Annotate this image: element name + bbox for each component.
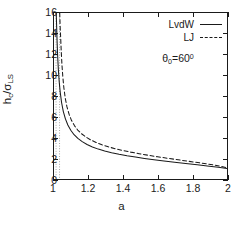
y-tick-mark bbox=[223, 33, 228, 34]
legend-item-lj: LJ bbox=[142, 31, 222, 44]
x-tick-label: 1.8 bbox=[178, 183, 208, 194]
y-tick-mark bbox=[223, 138, 228, 139]
y-tick-label: 10 bbox=[33, 70, 57, 81]
y-tick-label: 14 bbox=[33, 28, 57, 39]
y-tick-label: 6 bbox=[33, 112, 57, 123]
y-tick-label: 4 bbox=[33, 133, 57, 144]
y-axis-title: hc/σLS bbox=[1, 59, 15, 119]
legend-label-lj: LJ bbox=[183, 32, 194, 43]
legend-label-lvdw: LvdW bbox=[168, 19, 194, 30]
x-tick-mark bbox=[228, 175, 229, 180]
x-tick-label: 1.4 bbox=[108, 183, 138, 194]
y-tick-mark bbox=[223, 54, 228, 55]
y-tick-label: 8 bbox=[33, 91, 57, 102]
y-tick-mark bbox=[223, 75, 228, 76]
legend-line-dashed-icon bbox=[200, 34, 222, 42]
x-axis-title: a bbox=[0, 200, 243, 212]
x-tick-label: 1.2 bbox=[73, 183, 103, 194]
figure-container: 024681012141611.21.41.61.82 hc/σLS a Lvd… bbox=[0, 0, 243, 230]
x-tick-mark bbox=[123, 12, 124, 17]
x-tick-mark bbox=[53, 12, 54, 17]
x-tick-mark bbox=[53, 175, 54, 180]
x-tick-label: 1 bbox=[38, 183, 68, 194]
y-tick-mark bbox=[223, 117, 228, 118]
legend-item-lvdw: LvdW bbox=[142, 18, 222, 31]
x-tick-mark bbox=[158, 12, 159, 17]
x-tick-label: 1.6 bbox=[143, 183, 173, 194]
theta-annotation: θ0=600 bbox=[133, 52, 223, 66]
legend-line-solid-icon bbox=[200, 21, 222, 29]
x-tick-mark bbox=[123, 175, 124, 180]
x-tick-mark bbox=[193, 175, 194, 180]
x-tick-mark bbox=[193, 12, 194, 17]
x-tick-label: 2 bbox=[213, 183, 243, 194]
y-tick-mark bbox=[223, 96, 228, 97]
y-tick-mark bbox=[223, 159, 228, 160]
x-tick-mark bbox=[158, 175, 159, 180]
x-tick-mark bbox=[88, 12, 89, 17]
x-tick-mark bbox=[228, 12, 229, 17]
y-tick-label: 2 bbox=[33, 154, 57, 165]
legend: LvdW LJ bbox=[142, 18, 222, 44]
x-tick-mark bbox=[88, 175, 89, 180]
y-tick-label: 12 bbox=[33, 49, 57, 60]
